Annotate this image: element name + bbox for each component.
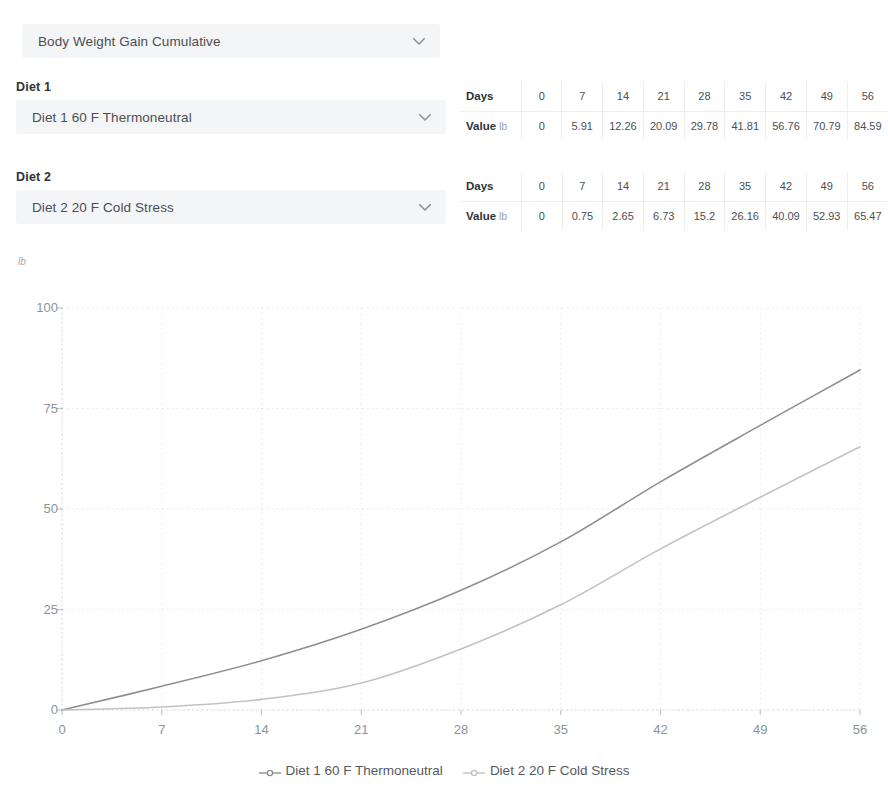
table-row: Value lb05.9112.2620.0929.7841.8156.7670… — [460, 111, 888, 140]
x-axis-tick-label: 35 — [554, 722, 568, 737]
table-cell-value: 41.81 — [725, 111, 766, 140]
x-axis-tick-label: 0 — [58, 722, 65, 737]
table-cell-value: 26.16 — [725, 201, 766, 230]
table-cell-day: 21 — [643, 82, 684, 111]
table-row: Days0714212835424956 — [460, 172, 888, 201]
diet-2-data-table: Days0714212835424956Value lb00.752.656.7… — [460, 172, 888, 230]
chart-legend: Diet 1 60 F ThermoneutralDiet 2 20 F Col… — [0, 763, 888, 778]
legend-label: Diet 1 60 F Thermoneutral — [286, 763, 443, 778]
table-cell-value: 12.26 — [603, 111, 644, 140]
diet-1-data-table: Days0714212835424956Value lb05.9112.2620… — [460, 82, 888, 140]
table-cell-day: 56 — [847, 82, 888, 111]
metric-select-value: Body Weight Gain Cumulative — [38, 34, 410, 49]
y-axis-tick-text: 75 — [14, 401, 58, 416]
legend-label: Diet 2 20 F Cold Stress — [490, 763, 630, 778]
legend-item-2[interactable]: Diet 2 20 F Cold Stress — [463, 763, 630, 778]
diet-2-select[interactable]: Diet 2 20 F Cold Stress — [16, 190, 446, 224]
table-row-header: Days — [460, 172, 522, 201]
x-axis-tick-label: 21 — [354, 722, 368, 737]
table-cell-day: 21 — [643, 172, 684, 201]
table-cell-value: 2.65 — [603, 201, 644, 230]
chevron-down-icon[interactable] — [410, 32, 428, 50]
chart-svg — [0, 252, 888, 788]
table-cell-value: 29.78 — [684, 111, 725, 140]
diet-1-select-value: Diet 1 60 F Thermoneutral — [32, 110, 416, 125]
table-cell-day: 49 — [806, 172, 847, 201]
y-axis-tick-text: 100 — [14, 300, 58, 315]
table-cell-value: 20.09 — [643, 111, 684, 140]
table-cell-value: 84.59 — [847, 111, 888, 140]
legend-item-1[interactable]: Diet 1 60 F Thermoneutral — [259, 763, 443, 778]
table-cell-value: 6.73 — [643, 201, 684, 230]
metric-select[interactable]: Body Weight Gain Cumulative — [22, 24, 440, 58]
table-cell-value: 65.47 — [847, 201, 888, 230]
table-cell-day: 14 — [603, 172, 644, 201]
x-axis-tick-label: 42 — [653, 722, 667, 737]
table-cell-day: 56 — [847, 172, 888, 201]
dashboard-page: Body Weight Gain Cumulative Diet 1 Diet … — [0, 0, 888, 788]
table-cell-day: 0 — [522, 82, 562, 111]
line-chart: lb 0255075100 0714212835424956 Diet 1 60… — [0, 252, 888, 788]
y-axis-tick-text: 0 — [14, 702, 58, 717]
table-cell-value: 0.75 — [562, 201, 603, 230]
table-cell-day: 28 — [684, 82, 725, 111]
y-axis-tick-text: 25 — [14, 602, 58, 617]
diet-1-label: Diet 1 — [16, 80, 446, 94]
table-cell-day: 14 — [603, 82, 644, 111]
diet-2-select-value: Diet 2 20 F Cold Stress — [32, 200, 416, 215]
table-row: Value lb00.752.656.7315.226.1640.0952.93… — [460, 201, 888, 230]
x-axis-tick-label: 14 — [254, 722, 268, 737]
table-cell-day: 7 — [562, 172, 603, 201]
table-cell-day: 42 — [766, 172, 807, 201]
x-axis-tick-label: 7 — [158, 722, 165, 737]
diet-2-label: Diet 2 — [16, 170, 446, 184]
table-cell-value: 40.09 — [766, 201, 807, 230]
table-row-header: Days — [460, 82, 522, 111]
diet-1-block: Diet 1 Diet 1 60 F Thermoneutral — [16, 80, 446, 134]
table-cell-day: 42 — [766, 82, 807, 111]
table-cell-value: 70.79 — [806, 111, 847, 140]
table-cell-value: 0 — [522, 111, 562, 140]
table-cell-value: 0 — [522, 201, 562, 230]
table-cell-day: 35 — [725, 172, 766, 201]
diet-1-select[interactable]: Diet 1 60 F Thermoneutral — [16, 100, 446, 134]
table-cell-day: 35 — [725, 82, 766, 111]
table-cell-day: 28 — [684, 172, 725, 201]
legend-marker-icon — [259, 766, 281, 776]
legend-marker-icon — [463, 766, 485, 776]
table-row: Days0714212835424956 — [460, 82, 888, 111]
table-row-header: Value lb — [460, 111, 522, 140]
table-cell-day: 49 — [806, 82, 847, 111]
table-cell-value: 5.91 — [562, 111, 603, 140]
diet-2-block: Diet 2 Diet 2 20 F Cold Stress — [16, 170, 446, 224]
x-axis-tick-label: 28 — [454, 722, 468, 737]
table-row-header: Value lb — [460, 201, 522, 230]
table-cell-value: 15.2 — [684, 201, 725, 230]
x-axis-tick-label: 56 — [853, 722, 867, 737]
table-cell-value: 56.76 — [766, 111, 807, 140]
table-cell-day: 7 — [562, 82, 603, 111]
y-axis-tick-text: 50 — [14, 501, 58, 516]
table-cell-value: 52.93 — [806, 201, 847, 230]
x-axis-tick-label: 49 — [753, 722, 767, 737]
chevron-down-icon[interactable] — [416, 198, 434, 216]
chevron-down-icon[interactable] — [416, 108, 434, 126]
table-cell-day: 0 — [522, 172, 562, 201]
